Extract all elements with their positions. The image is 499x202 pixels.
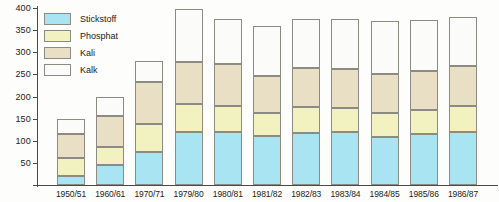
bar-1984-85[interactable] bbox=[371, 8, 399, 185]
bar-segment-stickstoff bbox=[135, 152, 163, 185]
bar-segment-stickstoff bbox=[253, 136, 281, 185]
bar-segment-stickstoff bbox=[292, 133, 320, 185]
y-axis-tick-label: 400 bbox=[0, 4, 31, 13]
bar-segment-phosphat bbox=[175, 104, 203, 131]
bar-1979-80[interactable] bbox=[175, 8, 203, 185]
bar-segment-kali bbox=[135, 82, 163, 124]
bar-1983-84[interactable] bbox=[331, 8, 359, 185]
bar-segment-stickstoff bbox=[57, 176, 85, 185]
y-axis-tick-label: 50 bbox=[0, 159, 31, 168]
bar-segment-kali bbox=[449, 66, 477, 107]
bar-segment-stickstoff bbox=[214, 132, 242, 185]
bar-segment-stickstoff bbox=[175, 132, 203, 185]
bar-segment-kalk bbox=[57, 119, 85, 134]
bar-segment-stickstoff bbox=[331, 132, 359, 185]
bar-segment-stickstoff bbox=[96, 165, 124, 185]
x-axis-label: 1986/87 bbox=[435, 190, 491, 199]
bar-segment-kali bbox=[331, 69, 359, 108]
bar-segment-kalk bbox=[371, 21, 399, 74]
bar-segment-phosphat bbox=[135, 124, 163, 151]
bar-segment-kali bbox=[175, 62, 203, 104]
bar-segment-stickstoff bbox=[410, 134, 438, 185]
y-axis-tick-label: 350 bbox=[0, 26, 31, 35]
y-axis-tick-label: 150 bbox=[0, 115, 31, 124]
bar-segment-phosphat bbox=[96, 147, 124, 165]
bar-1980-81[interactable] bbox=[214, 8, 242, 185]
bar-1981-82[interactable] bbox=[253, 8, 281, 185]
bar-segment-kalk bbox=[214, 19, 242, 64]
bar-segment-phosphat bbox=[449, 106, 477, 132]
bar-segment-kalk bbox=[331, 19, 359, 69]
bar-segment-phosphat bbox=[214, 106, 242, 132]
bar-segment-kali bbox=[410, 71, 438, 110]
bar-segment-kali bbox=[214, 64, 242, 106]
bar-segment-phosphat bbox=[410, 110, 438, 134]
bar-segment-kali bbox=[371, 74, 399, 113]
bar-1950-51[interactable] bbox=[57, 8, 85, 185]
bar-1982-83[interactable] bbox=[292, 8, 320, 185]
bar-segment-kalk bbox=[410, 20, 438, 71]
bar-1985-86[interactable] bbox=[410, 8, 438, 185]
bar-segment-kalk bbox=[253, 26, 281, 76]
bar-segment-phosphat bbox=[57, 158, 85, 176]
bar-1960-61[interactable] bbox=[96, 8, 124, 185]
bar-segment-kalk bbox=[449, 17, 477, 66]
bar-segment-stickstoff bbox=[449, 132, 477, 185]
bar-segment-phosphat bbox=[371, 113, 399, 137]
y-axis-tick-label: 100 bbox=[0, 137, 31, 146]
bar-segment-kalk bbox=[135, 61, 163, 82]
bar-segment-kali bbox=[292, 68, 320, 107]
bar-segment-phosphat bbox=[253, 113, 281, 136]
bar-segment-kalk bbox=[292, 19, 320, 68]
bar-1986-87[interactable] bbox=[449, 8, 477, 185]
bar-segment-phosphat bbox=[331, 108, 359, 132]
bar-1970-71[interactable] bbox=[135, 8, 163, 185]
bar-segment-kali bbox=[96, 116, 124, 147]
bar-segment-kali bbox=[57, 134, 85, 158]
bar-segment-stickstoff bbox=[371, 137, 399, 185]
x-axis-line bbox=[37, 185, 498, 186]
bar-segment-kali bbox=[253, 76, 281, 114]
y-axis-tick-label: 250 bbox=[0, 70, 31, 79]
chart-container: 50100150200250300350400 StickstoffPhosph… bbox=[0, 0, 499, 202]
bar-segment-kalk bbox=[96, 97, 124, 117]
bar-segment-kalk bbox=[175, 9, 203, 62]
bar-segment-phosphat bbox=[292, 107, 320, 133]
plot-area bbox=[38, 8, 499, 185]
y-axis-tick bbox=[33, 185, 38, 186]
y-axis-tick-label: 200 bbox=[0, 93, 31, 102]
y-axis-tick-label: 300 bbox=[0, 48, 31, 57]
